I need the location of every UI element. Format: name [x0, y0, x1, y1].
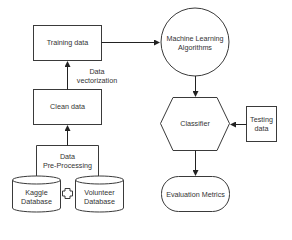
evaluation-metrics-label: Evaluation Metrics — [161, 190, 230, 199]
ml-label-line1: Machine Learning — [161, 34, 229, 43]
classifier-label: Classifier — [160, 119, 230, 128]
pre-processing-label-line2: Pre-Processing — [36, 161, 99, 170]
volunteer-label-line2: Database — [75, 197, 124, 206]
plus-icon — [63, 189, 73, 199]
pre-processing-label-line1: Data — [36, 152, 99, 161]
vectorization-label-line1: Data — [72, 67, 122, 76]
kaggle-database-label: Kaggle Database — [12, 188, 61, 206]
testing-label-line1: Testing — [246, 115, 277, 124]
volunteer-database-label: Volunteer Database — [75, 188, 124, 206]
vectorization-label: Data vectorization — [72, 67, 122, 85]
vectorization-label-line2: vectorization — [72, 76, 122, 85]
ml-algorithms-label: Machine Learning Algorithms — [161, 34, 229, 52]
testing-data-label: Testing data — [246, 115, 277, 133]
volunteer-label-line1: Volunteer — [75, 188, 124, 197]
kaggle-label-line2: Database — [12, 197, 61, 206]
training-data-label: Training data — [33, 38, 102, 47]
ml-label-line2: Algorithms — [161, 43, 229, 52]
testing-label-line2: data — [246, 124, 277, 133]
pre-processing-label: Data Pre-Processing — [36, 152, 99, 170]
clean-data-label: Clean data — [33, 102, 102, 111]
kaggle-label-line1: Kaggle — [12, 188, 61, 197]
